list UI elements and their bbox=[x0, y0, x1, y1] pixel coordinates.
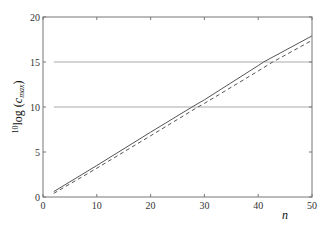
reference-lines bbox=[54, 62, 312, 107]
y-tick-label: 20 bbox=[30, 12, 40, 23]
series-solid bbox=[54, 36, 312, 192]
y-tick-label: 0 bbox=[35, 192, 40, 203]
x-tick-label: 30 bbox=[199, 200, 209, 211]
y-tick-label: 5 bbox=[35, 147, 40, 158]
y-axis-label: 10log (cmax) bbox=[11, 81, 26, 134]
x-tick-label: 20 bbox=[146, 200, 156, 211]
x-tick-label: 40 bbox=[253, 200, 263, 211]
line-chart: 0102030405005101520 n 10log (cmax) bbox=[0, 0, 330, 227]
y-label-sup: 10 bbox=[11, 126, 20, 134]
y-tick-label: 10 bbox=[30, 102, 40, 113]
x-tick-label: 0 bbox=[41, 200, 46, 211]
series-dashed bbox=[54, 40, 312, 193]
data-series bbox=[54, 36, 312, 194]
svg-text:10log (cmax): 10log (cmax) bbox=[11, 81, 26, 134]
x-tick-label: 50 bbox=[307, 200, 317, 211]
y-tick-label: 15 bbox=[30, 57, 40, 68]
x-tick-label: 10 bbox=[92, 200, 102, 211]
x-axis-label: n bbox=[282, 208, 288, 222]
axis-ticks: 0102030405005101520 bbox=[30, 12, 317, 212]
